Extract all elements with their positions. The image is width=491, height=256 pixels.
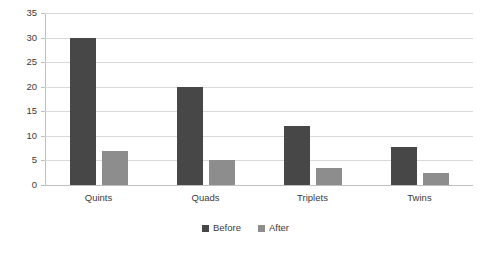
y-axis-tick (41, 136, 45, 137)
bar-group (152, 13, 259, 185)
legend-item: Before (202, 223, 241, 233)
bar-group (45, 13, 152, 185)
bar (70, 38, 96, 185)
bar-groups (45, 13, 473, 185)
bar (209, 160, 235, 185)
bar-group (366, 13, 473, 185)
y-axis-tick-label: 35 (0, 8, 37, 18)
y-axis-tick (41, 62, 45, 63)
x-axis-tick-label: Quints (45, 192, 152, 203)
y-axis-tick-label: 30 (0, 33, 37, 43)
y-axis-tick-label: 20 (0, 82, 37, 92)
y-axis-labels: 05101520253035 (0, 0, 37, 256)
bar-group (259, 13, 366, 185)
legend-label: Before (213, 223, 241, 233)
legend: BeforeAfter (0, 223, 491, 233)
y-axis-tick (41, 160, 45, 161)
y-axis-tick (41, 13, 45, 14)
legend-label: After (269, 223, 289, 233)
x-axis-tick-label: Quads (152, 192, 259, 203)
x-axis-labels: QuintsQuadsTripletsTwins (45, 192, 473, 203)
y-axis-tick-label: 15 (0, 106, 37, 116)
y-axis-tick (41, 87, 45, 88)
legend-swatch-icon (258, 225, 265, 232)
bar (316, 168, 342, 185)
gridline (45, 185, 473, 186)
bar (102, 151, 128, 185)
bar (177, 87, 203, 185)
bar (423, 173, 449, 185)
x-axis-tick-label: Triplets (259, 192, 366, 203)
plot-area (45, 13, 473, 185)
y-axis-tick (41, 111, 45, 112)
bar (284, 126, 310, 185)
y-axis-tick-label: 5 (0, 155, 37, 165)
bar (391, 147, 417, 185)
y-axis-tick (41, 185, 45, 186)
y-axis-tick (41, 38, 45, 39)
y-axis-tick-label: 0 (0, 180, 37, 190)
legend-item: After (258, 223, 289, 233)
y-axis-tick-label: 10 (0, 131, 37, 141)
bar-chart: 05101520253035 QuintsQuadsTripletsTwins … (0, 0, 491, 256)
x-axis-tick-label: Twins (366, 192, 473, 203)
y-axis-tick-label: 25 (0, 57, 37, 67)
legend-swatch-icon (202, 225, 209, 232)
